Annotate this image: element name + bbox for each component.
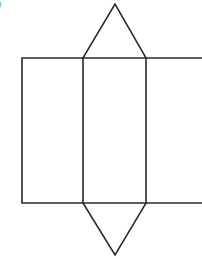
net-shape-group bbox=[22, 4, 202, 255]
top-triangle-face bbox=[83, 4, 146, 58]
bottom-triangle-face bbox=[83, 203, 146, 255]
figure-root: ) bbox=[0, 0, 202, 259]
net-diagram bbox=[0, 0, 202, 259]
middle-rectangle-face bbox=[83, 58, 146, 203]
left-rectangle-face bbox=[22, 58, 83, 203]
